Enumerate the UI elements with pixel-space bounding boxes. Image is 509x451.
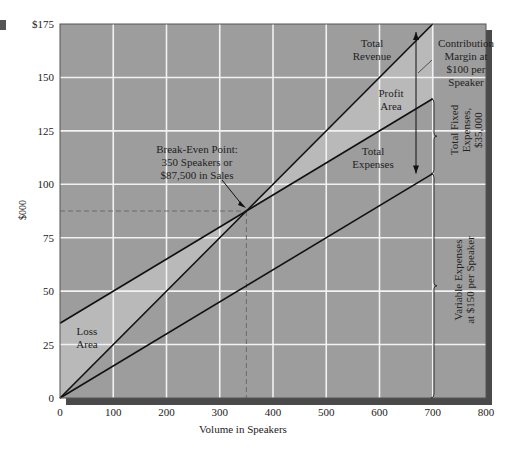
profit-area-label: ProfitArea: [378, 87, 403, 112]
x-tick-label: 400: [265, 406, 282, 418]
y-tick-label: $175: [32, 18, 55, 30]
break-even-chart: 0100200300400500600700800025507510012515…: [0, 0, 509, 451]
variable-expenses-label: Variable Expensesat $150 per Speaker: [452, 236, 476, 324]
y-tick-label: 50: [43, 285, 55, 297]
y-tick-label: 75: [43, 232, 55, 244]
y-tick-label: 125: [38, 125, 55, 137]
x-tick-label: 500: [318, 406, 335, 418]
loss-area-label: LossArea: [76, 325, 97, 350]
x-axis-label: Volume in Speakers: [199, 423, 287, 435]
y-tick-label: 0: [49, 392, 55, 404]
y-axis-label: $000: [17, 200, 28, 220]
y-tick-label: 25: [43, 339, 55, 351]
x-tick-label: 300: [212, 406, 229, 418]
break-even-label: Break-Even Point:350 Speakers or$87,500 …: [156, 143, 238, 181]
y-tick-label: 150: [38, 71, 55, 83]
x-tick-label: 600: [371, 406, 388, 418]
y-tick-label: 100: [38, 178, 55, 190]
x-tick-label: 0: [57, 406, 63, 418]
x-tick-label: 200: [158, 406, 175, 418]
x-tick-label: 700: [425, 406, 442, 418]
x-tick-label: 100: [105, 406, 122, 418]
x-tick-label: 800: [478, 406, 495, 418]
